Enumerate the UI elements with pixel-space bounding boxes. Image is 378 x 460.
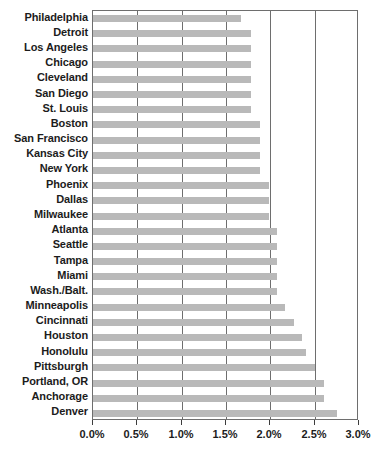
bar: [93, 319, 294, 326]
bar: [93, 197, 269, 204]
category-label: Honolulu: [0, 346, 88, 357]
x-tick-label: 3.0%: [328, 428, 378, 440]
bar: [93, 334, 302, 341]
x-tick: [314, 420, 315, 425]
category-label: Philadelphia: [0, 12, 88, 23]
category-label: Denver: [0, 406, 88, 417]
x-tick: [269, 420, 270, 425]
bar: [93, 243, 277, 250]
bar: [93, 137, 260, 144]
bar: [93, 380, 324, 387]
category-label: Houston: [0, 330, 88, 341]
category-label: Portland, OR: [0, 376, 88, 387]
x-tick: [181, 420, 182, 425]
bar: [93, 152, 260, 159]
x-tick: [136, 420, 137, 425]
bar: [93, 30, 251, 37]
x-tick: [225, 420, 226, 425]
bar: [93, 364, 315, 371]
category-label: Wash./Balt.: [0, 285, 88, 296]
bar: [93, 395, 324, 402]
gridline-2.5pct: [315, 11, 316, 419]
category-label: Kansas City: [0, 148, 88, 159]
category-label: San Diego: [0, 88, 88, 99]
bar: [93, 106, 251, 113]
bar-chart: PhiladelphiaDetroitLos AngelesChicagoCle…: [0, 0, 378, 460]
bar: [93, 273, 277, 280]
category-label: Detroit: [0, 27, 88, 38]
x-axis-tick-labels: 0.0%0.5%1.0%1.5%2.0%2.5%3.0%: [0, 428, 378, 448]
category-axis-labels: PhiladelphiaDetroitLos AngelesChicagoCle…: [0, 10, 88, 420]
bar: [93, 410, 337, 417]
category-label: Atlanta: [0, 224, 88, 235]
category-label: Cincinnati: [0, 315, 88, 326]
category-label: Seattle: [0, 239, 88, 250]
category-label: New York: [0, 163, 88, 174]
x-axis-ticks: [92, 420, 358, 425]
category-label: Miami: [0, 270, 88, 281]
category-label: Dallas: [0, 194, 88, 205]
category-label: Chicago: [0, 57, 88, 68]
category-label: Pittsburgh: [0, 361, 88, 372]
bar: [93, 304, 285, 311]
category-label: St. Louis: [0, 103, 88, 114]
bar: [93, 45, 251, 52]
x-tick: [92, 420, 93, 425]
bar: [93, 182, 269, 189]
bar: [93, 349, 306, 356]
plot-area: [92, 10, 358, 420]
category-label: Tampa: [0, 255, 88, 266]
category-label: Milwaukee: [0, 209, 88, 220]
gridline-2.0pct: [270, 11, 271, 419]
bar: [93, 76, 251, 83]
bar: [93, 288, 277, 295]
bar: [93, 15, 241, 22]
bar: [93, 91, 251, 98]
category-label: Boston: [0, 118, 88, 129]
category-label: San Francisco: [0, 133, 88, 144]
category-label: Phoenix: [0, 179, 88, 190]
category-label: Los Angeles: [0, 42, 88, 53]
bar: [93, 121, 260, 128]
bar: [93, 213, 269, 220]
category-label: Anchorage: [0, 391, 88, 402]
bar: [93, 61, 251, 68]
category-label: Cleveland: [0, 72, 88, 83]
bar: [93, 258, 277, 265]
bar: [93, 228, 277, 235]
x-tick: [358, 420, 359, 425]
category-label: Minneapolis: [0, 300, 88, 311]
bar: [93, 167, 260, 174]
